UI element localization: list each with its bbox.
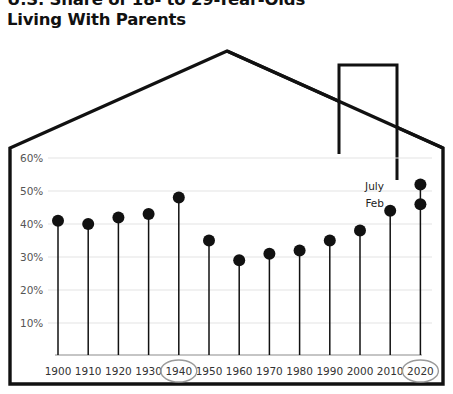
roof-right-segment bbox=[227, 51, 443, 148]
data-point-1960 bbox=[233, 254, 245, 266]
ytick-label-50: 50% bbox=[20, 185, 43, 197]
xtick-label-1920: 1920 bbox=[105, 365, 132, 377]
data-point-2020-july bbox=[414, 178, 426, 190]
xtick-label-2020: 2020 bbox=[407, 365, 434, 377]
data-point-1950 bbox=[203, 235, 215, 247]
data-point-2020-feb bbox=[414, 198, 426, 210]
house-chart-graphic: 60% 50% 40% 30% 20% 10% July Feb 1900191… bbox=[0, 0, 453, 394]
ytick-label-10: 10% bbox=[20, 317, 43, 329]
xtick-label-1910: 1910 bbox=[75, 365, 102, 377]
ytick-label-40: 40% bbox=[20, 218, 43, 230]
xtick-label-1900: 1900 bbox=[45, 365, 72, 377]
ytick-label-30: 30% bbox=[20, 251, 43, 263]
ytick-label-20: 20% bbox=[20, 284, 43, 296]
point-annotations: July Feb bbox=[364, 180, 384, 209]
xtick-label-1940: 1940 bbox=[165, 365, 192, 377]
data-point-2010 bbox=[384, 205, 396, 217]
xtick-label-1970: 1970 bbox=[256, 365, 283, 377]
xtick-label-2000: 2000 bbox=[347, 365, 374, 377]
ytick-label-60: 60% bbox=[20, 152, 43, 164]
xtick-label-1990: 1990 bbox=[316, 365, 343, 377]
data-point-1990 bbox=[324, 235, 336, 247]
data-point-1980 bbox=[294, 244, 306, 256]
data-point-1970 bbox=[263, 248, 275, 260]
data-point-1940 bbox=[173, 192, 185, 204]
july-point-label: July bbox=[364, 180, 384, 192]
data-point-2000 bbox=[354, 225, 366, 237]
xtick-label-1930: 1930 bbox=[135, 365, 162, 377]
feb-point-label: Feb bbox=[365, 197, 384, 209]
x-axis-labels: 1900191019201930194019501960197019801990… bbox=[45, 365, 434, 377]
chart-canvas: U.S. Share of 18- to 29-Year-Olds Living… bbox=[0, 0, 453, 394]
data-point-1920 bbox=[112, 211, 124, 223]
xtick-label-2010: 2010 bbox=[377, 365, 404, 377]
data-point-1910 bbox=[82, 218, 94, 230]
xtick-label-1980: 1980 bbox=[286, 365, 313, 377]
y-axis-labels: 60% 50% 40% 30% 20% 10% bbox=[20, 152, 43, 329]
xtick-label-1960: 1960 bbox=[226, 365, 253, 377]
data-point-1900 bbox=[52, 215, 64, 227]
xtick-label-1950: 1950 bbox=[196, 365, 223, 377]
data-point-1930 bbox=[143, 208, 155, 220]
